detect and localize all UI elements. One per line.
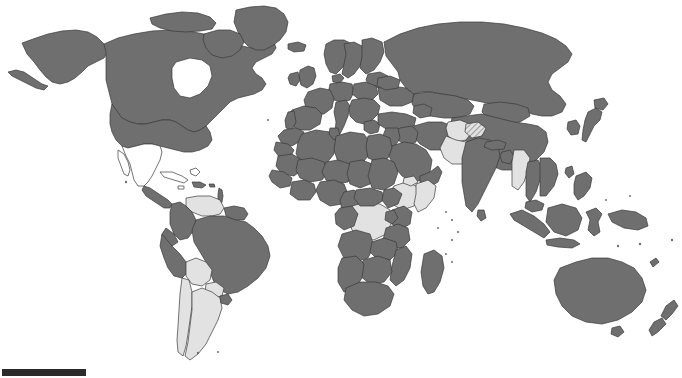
island-speck: [671, 239, 673, 241]
island-speck: [197, 352, 199, 354]
island-speck: [451, 261, 453, 263]
island-speck: [445, 253, 447, 255]
island-speck: [457, 231, 459, 233]
country-ivory-coast-ghana: [290, 180, 316, 200]
country-nepal-bhutan: [484, 140, 506, 150]
island-speck: [605, 199, 607, 201]
island-speck: [162, 241, 164, 243]
world-choropleth-figure: [0, 0, 682, 378]
island-speck: [217, 351, 219, 353]
island-speck: [125, 181, 127, 183]
island-speck: [629, 195, 631, 197]
world-map-svg: [0, 0, 682, 378]
island-speck: [451, 239, 453, 241]
island-speck: [437, 227, 439, 229]
country-greece: [364, 120, 380, 134]
scale-bar: [2, 369, 86, 376]
map-page: [0, 0, 682, 378]
island-speck: [639, 243, 641, 245]
island-speck: [267, 119, 269, 121]
country-jamaica: [178, 186, 184, 189]
island-speck: [445, 211, 447, 213]
country-puerto-rico: [209, 184, 215, 187]
island-speck: [451, 219, 453, 221]
country-egypt: [366, 134, 392, 162]
island-speck: [617, 245, 619, 247]
